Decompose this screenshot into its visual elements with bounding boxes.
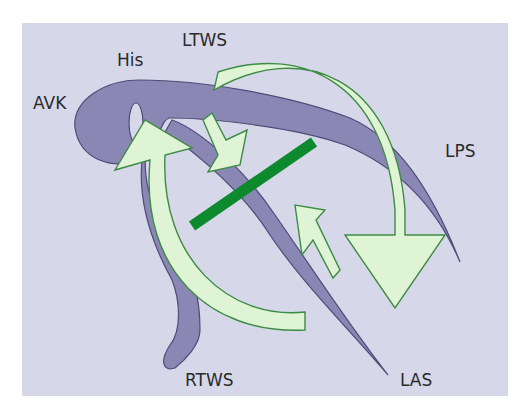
conduction-diagram: AVK His LTWS LPS RTWS LAS: [0, 0, 525, 416]
label-avk: AVK: [33, 93, 67, 113]
label-ltws: LTWS: [182, 30, 227, 50]
label-las: LAS: [400, 370, 432, 390]
label-lps: LPS: [445, 141, 476, 161]
label-rtws: RTWS: [185, 370, 234, 390]
label-his: His: [117, 50, 144, 70]
